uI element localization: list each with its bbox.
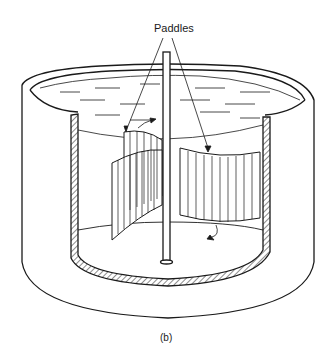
figure-caption: (b) <box>160 332 172 343</box>
paddles <box>112 131 260 240</box>
paddles-callout-label: Paddles <box>154 22 194 34</box>
paddle-mixer-tank-diagram <box>0 0 336 350</box>
